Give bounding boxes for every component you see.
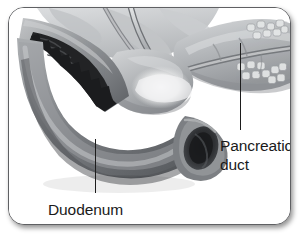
illustration-clip	[9, 8, 290, 224]
leader-line-duodenum	[95, 139, 96, 193]
leader-line-pancreatic-duct	[240, 43, 241, 130]
label-pancreatic-duct: Pancreatic duct	[220, 136, 291, 174]
pancreas-duodenum-illustration	[9, 8, 290, 224]
figure-root: Pancreatic duct Duodenum	[0, 0, 305, 241]
label-duodenum: Duodenum	[48, 200, 123, 219]
anatomy-card: Pancreatic duct Duodenum	[8, 7, 291, 225]
contact-shadow	[43, 175, 195, 193]
